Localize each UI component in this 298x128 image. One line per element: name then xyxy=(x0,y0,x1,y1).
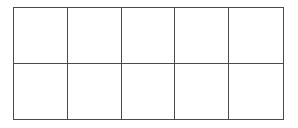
grid-cell-r2-c2 xyxy=(68,64,122,120)
empty-grid xyxy=(13,7,284,120)
grid-cell-r2-c5 xyxy=(229,64,283,120)
grid-cell-r2-c4 xyxy=(175,64,229,120)
grid-cell-r1-c3 xyxy=(122,8,176,64)
grid-cell-r2-c1 xyxy=(14,64,68,120)
grid-cell-r1-c2 xyxy=(68,8,122,64)
grid-cell-r1-c4 xyxy=(175,8,229,64)
grid-cell-r1-c5 xyxy=(229,8,283,64)
grid-cell-r2-c3 xyxy=(122,64,176,120)
grid-cell-r1-c1 xyxy=(14,8,68,64)
